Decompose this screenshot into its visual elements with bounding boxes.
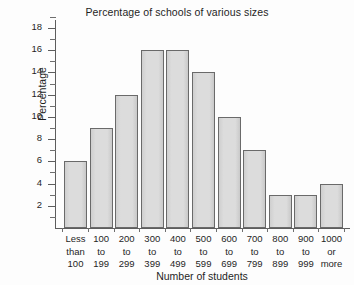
bar (90, 128, 113, 228)
y-tick-major (48, 206, 56, 207)
x-tick (216, 228, 217, 232)
x-axis-title: Number of students (56, 270, 348, 282)
x-tick (165, 228, 166, 232)
x-tick (62, 228, 63, 232)
x-tick (139, 228, 140, 232)
bar (269, 195, 292, 228)
bar (64, 161, 87, 228)
y-tick-major (48, 139, 56, 140)
bar (320, 184, 343, 228)
y-tick-major (48, 184, 56, 185)
bar (166, 50, 189, 228)
x-tick (344, 228, 345, 232)
x-tick (190, 228, 191, 232)
bar (243, 150, 266, 228)
x-category-label-line: more (312, 258, 352, 271)
bar (115, 95, 138, 228)
x-tick (318, 228, 319, 232)
y-tick-minor (50, 17, 56, 18)
y-tick-major (48, 50, 56, 51)
x-tick (242, 228, 243, 232)
bar (192, 72, 215, 228)
x-category-label: 1000ormore (312, 233, 352, 271)
y-tick-major (48, 72, 56, 73)
x-category-label-line: 1000 (312, 233, 352, 246)
bar (294, 195, 317, 228)
bar-chart: Percentage of schools of various sizes P… (0, 0, 354, 285)
x-tick (88, 228, 89, 232)
y-tick-major (48, 95, 56, 96)
plot-area (56, 20, 348, 228)
y-tick-major (48, 117, 56, 118)
bar (141, 50, 164, 228)
y-tick-major (48, 161, 56, 162)
x-axis-line (55, 228, 350, 229)
y-tick-major (48, 28, 56, 29)
x-tick (114, 228, 115, 232)
x-category-label-line: or (312, 246, 352, 259)
x-tick (293, 228, 294, 232)
x-tick (267, 228, 268, 232)
bar (218, 117, 241, 228)
